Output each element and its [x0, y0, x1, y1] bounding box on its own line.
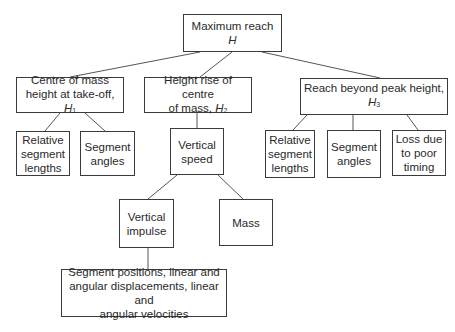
- node-variable: H: [228, 34, 236, 46]
- edge-vspeed-mass: [218, 175, 243, 199]
- node-relative-segment-lengths-right: Relative segment lengths: [265, 130, 315, 178]
- node-label: Centre of mass: [31, 73, 109, 87]
- node-mass: Mass: [219, 199, 273, 246]
- node-segment-angles-left: Segment angles: [80, 131, 135, 176]
- edge-h3-rel: [293, 115, 307, 130]
- node-vertical-speed: Vertical speed: [170, 128, 224, 175]
- node-vertical-impulse: Vertical impulse: [119, 199, 174, 248]
- node-label: Reach beyond peak height,: [304, 81, 444, 95]
- node-reach-beyond-peak: Reach beyond peak height, H3: [300, 78, 448, 115]
- node-segment-angles-right: Segment angles: [327, 130, 381, 178]
- edge-vspeed-vimpulse: [148, 175, 177, 199]
- node-height-rise: Height rise of centre of mass, H2: [144, 77, 252, 113]
- edge-h3-loss: [407, 115, 418, 130]
- node-segment-positions: Segment positions, linear and angular di…: [61, 269, 227, 317]
- node-centre-of-mass-height: Centre of mass height at take-off, H1: [16, 77, 124, 113]
- edge-root-h3: [262, 52, 380, 78]
- node-loss-due-to-poor-timing: Loss due to poor timing: [392, 130, 446, 176]
- node-maximum-reach: Maximum reach H: [183, 14, 282, 52]
- node-relative-segment-lengths-left: Relative segment lengths: [16, 131, 70, 176]
- node-label: Maximum reach: [192, 19, 274, 33]
- node-label: Height rise of centre: [147, 73, 249, 101]
